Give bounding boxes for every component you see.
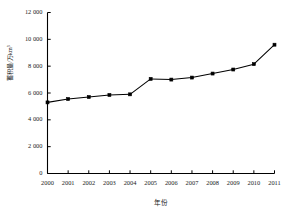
data-point-marker [190, 76, 193, 79]
line-chart: 蓄积量/万km³ 年份 02 0004 0006 0008 00010 0001… [0, 0, 288, 219]
data-point-marker [67, 98, 70, 101]
data-point-marker [108, 94, 111, 97]
series-line [48, 45, 275, 103]
y-axis-tick-label: 0 [0, 170, 43, 176]
data-point-marker [273, 43, 276, 46]
y-axis-tick-label: 4 000 [0, 116, 43, 122]
plot-area [0, 0, 288, 219]
axis-ticks [48, 13, 275, 174]
x-axis-title: 年份 [47, 200, 275, 207]
data-series [46, 43, 276, 104]
data-point-marker [129, 93, 132, 96]
y-axis-tick-label: 8 000 [0, 63, 43, 69]
data-point-marker [211, 72, 214, 75]
x-axis-tick-label: 2011 [260, 180, 289, 186]
y-axis-tick-label: 10 000 [0, 36, 43, 42]
y-axis-tick-label: 6 000 [0, 90, 43, 96]
data-point-marker [170, 78, 173, 81]
data-point-marker [252, 63, 255, 66]
data-point-marker [149, 77, 152, 80]
data-point-marker [232, 68, 235, 71]
data-point-marker [46, 101, 49, 104]
axes [48, 13, 275, 174]
y-axis-tick-label: 12 000 [0, 9, 43, 15]
data-point-marker [87, 96, 90, 99]
y-axis-tick-label: 2 000 [0, 143, 43, 149]
